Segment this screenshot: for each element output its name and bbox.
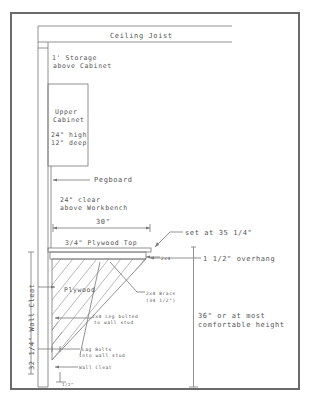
wall-stud — [38, 42, 48, 387]
apron-2x4 — [50, 252, 146, 259]
plywood-label: Plywood — [64, 286, 96, 294]
depth-label: 30" — [96, 218, 110, 226]
top-height-leader — [155, 232, 183, 247]
cabinet-label-3: 24" high — [51, 131, 87, 139]
upper-cabinet — [48, 84, 88, 166]
brace-label-1: 2x4 Brace — [146, 291, 176, 296]
overhang-label: 1 1/2" overhang — [203, 255, 275, 263]
top-height-label: set at 35 1/4" — [185, 229, 252, 237]
plywood-top — [48, 248, 151, 252]
brace-label-2: (34 1/2") — [146, 298, 176, 303]
bench-height-label-2: comfortable height — [198, 321, 285, 329]
two-by-four-label: 2x4 — [161, 256, 171, 261]
workbench-elevation-drawing: Ceiling Joist 1' Storage above Cabinet U… — [0, 0, 310, 401]
storage-label-1: 1' Storage — [52, 54, 97, 62]
floor-gap-label: 1/2" — [62, 382, 74, 387]
overhang-marker — [150, 247, 201, 387]
wall-cleat-label: Wall Cleat — [79, 365, 112, 370]
clear-label-1: 24" clear — [60, 196, 101, 204]
cabinet-label-1: Upper — [55, 108, 78, 116]
leg-label-2: to wall stud — [94, 320, 134, 325]
pegboard-label: Pegboard — [94, 176, 133, 184]
bench-height-label-1: 36" or at most — [198, 312, 265, 320]
brace-leader — [110, 262, 145, 292]
storage-label-2: above Cabinet — [53, 62, 112, 70]
leg-label-1: 2x4 Leg bolted — [92, 314, 138, 319]
cabinet-label-2: Cabinet — [53, 116, 85, 124]
clear-label-2: above Workbench — [60, 204, 128, 212]
plywood-top-label: 3/4" Plywood Top — [65, 239, 137, 247]
ceiling-joist-label: Ceiling Joist — [110, 32, 173, 40]
wall-cleat-height-label: 32 1/4" Wall Cleat — [28, 283, 36, 370]
lag-label-1: Lag Bolts — [82, 347, 112, 352]
cabinet-label-4: 12" deep — [51, 139, 87, 147]
lag-label-2: into wall stud — [79, 353, 125, 358]
